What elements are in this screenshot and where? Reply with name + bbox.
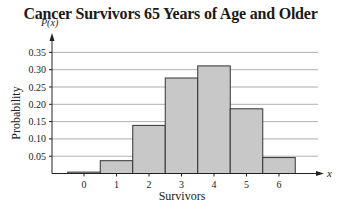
histogram-chart: 0.050.100.150.200.250.300.35 0123456 P(x… (0, 0, 341, 213)
bar-6 (263, 158, 296, 174)
y-tick-label: 0.20 (29, 99, 47, 110)
x-tick-label: 0 (82, 179, 87, 190)
x-tick-labels: 0123456 (82, 174, 282, 190)
x-tick-label: 5 (244, 179, 249, 190)
y-tick-label: 0.15 (29, 116, 47, 127)
y-tick-label: 0.30 (29, 64, 47, 75)
y-tick-label: 0.10 (29, 133, 47, 144)
bar-1 (100, 161, 133, 174)
x-tick-label: 3 (179, 179, 184, 190)
x-tick-label: 4 (212, 179, 217, 190)
y-tick-label: 0.35 (29, 47, 47, 58)
bar-4 (198, 66, 231, 174)
y-axis-arrow-icon (50, 33, 55, 41)
y-tick-labels: 0.050.100.150.200.250.300.35 (29, 47, 53, 162)
x-tick-label: 1 (114, 179, 119, 190)
x-axis-label: Survivors (159, 189, 206, 203)
y-axis-symbol: P(x) (40, 17, 59, 29)
y-axis-label: Probability (9, 86, 23, 139)
x-axis-symbol: x (326, 167, 332, 179)
y-tick-label: 0.25 (29, 82, 47, 93)
bar-5 (230, 109, 263, 174)
bar-3 (165, 78, 198, 173)
bars (68, 66, 296, 174)
bar-2 (133, 125, 166, 173)
y-tick-label: 0.05 (29, 151, 47, 162)
x-tick-label: 6 (277, 179, 282, 190)
x-tick-label: 2 (147, 179, 152, 190)
x-axis-arrow-icon (316, 171, 324, 176)
